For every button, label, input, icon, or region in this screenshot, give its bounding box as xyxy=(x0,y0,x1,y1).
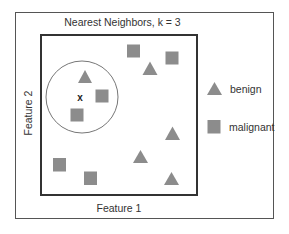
benign-point-triangle-icon xyxy=(133,150,148,163)
benign-point-triangle-icon xyxy=(78,70,92,83)
plot-shapes: x xyxy=(0,0,289,234)
legend-benign-triangle-icon xyxy=(207,82,222,95)
malignant-point-square-icon xyxy=(96,90,109,103)
benign-point-triangle-icon xyxy=(164,172,179,185)
legend-malignant-square-icon xyxy=(208,120,221,134)
malignant-point-square-icon xyxy=(71,109,84,122)
benign-point-triangle-icon xyxy=(165,127,180,141)
query-point-marker: x xyxy=(77,92,83,103)
legend-label-benign: benign xyxy=(230,83,262,95)
malignant-point-square-icon xyxy=(84,172,97,186)
legend-label-malignant: malignant xyxy=(229,121,275,133)
malignant-point-square-icon xyxy=(53,158,66,172)
benign-point-triangle-icon xyxy=(143,62,158,76)
malignant-point-square-icon xyxy=(127,45,140,58)
malignant-point-square-icon xyxy=(166,52,179,65)
